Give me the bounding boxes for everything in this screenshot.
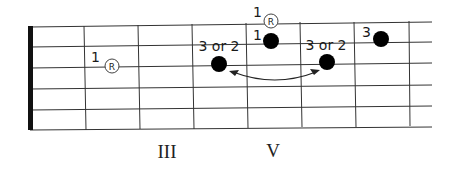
finger-label: 1 xyxy=(253,4,262,20)
root-symbol: R xyxy=(109,62,115,72)
fret-line xyxy=(246,23,248,128)
fret-line xyxy=(409,21,410,126)
string-5 xyxy=(30,106,432,110)
fret-line xyxy=(192,24,194,129)
finger-label: 3 or 2 xyxy=(198,38,239,54)
string-4 xyxy=(30,85,432,89)
filled-dot-icon xyxy=(373,31,389,47)
fret-line xyxy=(138,25,140,129)
finger-label: 3 xyxy=(362,24,371,40)
filled-dot-icon xyxy=(211,56,227,72)
filled-dot-icon xyxy=(263,33,279,49)
root-symbol: R xyxy=(268,17,274,27)
fret-line xyxy=(300,22,302,127)
fret-marker-iii: III xyxy=(158,141,177,162)
fret-marker-v: V xyxy=(266,140,280,161)
string-6 xyxy=(30,127,432,130)
note-marker: 3 or 2 xyxy=(305,37,346,70)
nut xyxy=(28,26,33,130)
filled-dot-icon xyxy=(319,54,335,70)
note-marker: 3 xyxy=(362,24,389,47)
string-1 xyxy=(30,22,432,27)
finger-label: 3 or 2 xyxy=(305,37,346,53)
finger-label: 1 xyxy=(91,49,100,65)
fret-line xyxy=(84,26,86,130)
double-arrow-icon xyxy=(229,69,320,80)
root-note-marker: R 1 xyxy=(91,49,119,73)
fretboard-diagram: R 1 3 or 2 R 1 1 3 or 2 3 III V xyxy=(0,0,451,171)
fret-line xyxy=(354,22,356,127)
finger-label: 1 xyxy=(253,27,262,43)
note-marker: 1 xyxy=(253,27,279,49)
note-marker: 3 or 2 xyxy=(198,38,239,72)
